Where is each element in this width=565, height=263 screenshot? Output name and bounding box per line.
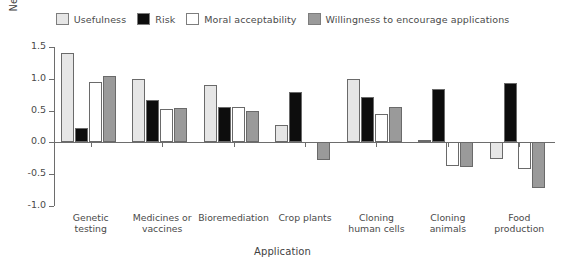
legend-swatch-icon (56, 13, 69, 25)
bar-risk-0 (75, 128, 88, 142)
bar-risk-5 (432, 89, 445, 142)
bar-moral-1 (160, 109, 173, 142)
y-tick-label: 0.5 (31, 104, 46, 115)
bar-group (490, 47, 545, 206)
bar-willingness-5 (460, 142, 473, 166)
y-tick-mark (49, 142, 54, 143)
legend-swatch-icon (137, 13, 150, 25)
bar-willingness-6 (532, 142, 545, 187)
bar-risk-3 (289, 92, 302, 142)
chart-legend: UsefulnessRiskMoral acceptabilityWilling… (0, 13, 565, 25)
y-tick-label: 0.0 (31, 135, 46, 146)
bar-usefulness-1 (132, 79, 145, 143)
bar-moral-0 (89, 82, 102, 142)
bar-group (418, 47, 473, 206)
bar-group (204, 47, 259, 206)
cropped-title-remnant (0, 0, 565, 7)
bar-risk-1 (146, 100, 159, 142)
x-tick-mark (162, 142, 163, 147)
bar-group (275, 47, 330, 206)
bar-usefulness-6 (490, 142, 503, 159)
bar-willingness-0 (103, 76, 116, 143)
bar-usefulness-3 (275, 125, 288, 142)
legend-item-label: Willingness to encourage applications (326, 14, 510, 25)
bar-usefulness-2 (204, 85, 217, 142)
y-tick-label: 1.0 (31, 72, 46, 83)
bar-moral-2 (232, 107, 245, 142)
legend-item-2: Moral acceptability (186, 13, 296, 25)
bar-chart: UsefulnessRiskMoral acceptabilityWilling… (0, 0, 565, 263)
bar-group (61, 47, 116, 206)
plot-area: 1.51.00.50.0-0.5-1.0 Negative/positive e… (55, 47, 555, 206)
x-axis-category-labels: GenetictestingMedicines orvaccinesBiorem… (55, 212, 555, 244)
bar-usefulness-5 (418, 140, 431, 142)
x-tick-mark (448, 142, 449, 147)
legend-item-label: Risk (155, 14, 175, 25)
x-tick-mark (91, 142, 92, 147)
bar-risk-2 (218, 107, 231, 143)
category-label-line: vaccines (118, 223, 205, 234)
bar-group (347, 47, 402, 206)
legend-swatch-icon (186, 13, 199, 25)
x-axis-title: Application (0, 246, 565, 257)
legend-swatch-icon (308, 13, 321, 25)
y-tick-mark (49, 174, 54, 175)
category-label-line: production (476, 223, 563, 234)
y-tick-label: 1.5 (31, 40, 46, 51)
bar-groups (55, 47, 555, 206)
y-tick-label: -1.0 (27, 199, 46, 210)
category-label-line: Food (476, 212, 563, 223)
bar-willingness-4 (389, 107, 402, 142)
x-tick-mark (305, 142, 306, 147)
y-tick-label: -0.5 (27, 167, 46, 178)
y-axis-title: Negative/positive evaluation (−2 to +2) (8, 0, 19, 19)
x-tick-mark (234, 142, 235, 147)
bar-willingness-2 (246, 111, 259, 142)
legend-item-3: Willingness to encourage applications (308, 13, 510, 25)
category-label-6: Foodproduction (476, 212, 563, 234)
x-tick-mark (519, 142, 520, 147)
bar-usefulness-4 (347, 79, 360, 143)
bar-usefulness-0 (61, 53, 74, 142)
legend-item-label: Moral acceptability (204, 14, 296, 25)
bar-moral-4 (375, 114, 388, 142)
legend-item-1: Risk (137, 13, 175, 25)
bar-risk-4 (361, 97, 374, 143)
bar-group (132, 47, 187, 206)
bar-willingness-3 (317, 142, 330, 159)
y-tick-mark (49, 47, 54, 48)
legend-item-0: Usefulness (56, 13, 127, 25)
y-tick-mark (49, 111, 54, 112)
legend-item-label: Usefulness (74, 14, 127, 25)
bar-willingness-1 (174, 108, 187, 142)
x-tick-mark (376, 142, 377, 147)
bar-risk-6 (504, 83, 517, 143)
y-tick-mark (49, 206, 54, 207)
y-tick-mark (49, 79, 54, 80)
